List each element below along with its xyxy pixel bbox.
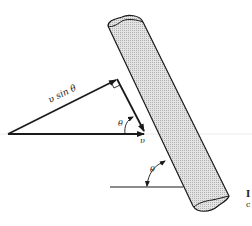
theta-label-bottom: θ — [150, 165, 155, 174]
caption-fragment-line1: I — [246, 189, 250, 199]
theta-label-top: θ — [118, 119, 123, 128]
vector-diagram: υ sin θ θ υ θ I c — [0, 0, 252, 226]
theta-arc-top — [125, 117, 133, 134]
vector-triangle — [8, 79, 144, 134]
v-label: υ — [140, 136, 145, 145]
lower-angle-reference — [110, 161, 183, 187]
pipe-cylinder — [108, 15, 229, 211]
caption-fragment-line2: c — [246, 200, 251, 209]
